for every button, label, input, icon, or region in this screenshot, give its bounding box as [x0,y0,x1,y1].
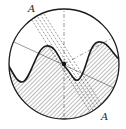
center-point [62,62,66,66]
label-a-bottom: A [100,111,108,122]
section-diagram: A A [0,0,126,129]
label-a-top: A [27,3,35,14]
